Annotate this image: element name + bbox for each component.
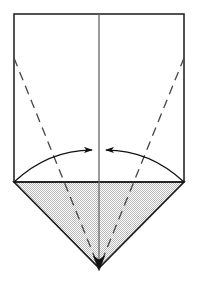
fold-diagram-svg — [0, 0, 199, 285]
right-fold-arrow — [106, 150, 184, 182]
figure-canvas — [0, 0, 199, 285]
left-fold-arrow — [14, 150, 92, 182]
